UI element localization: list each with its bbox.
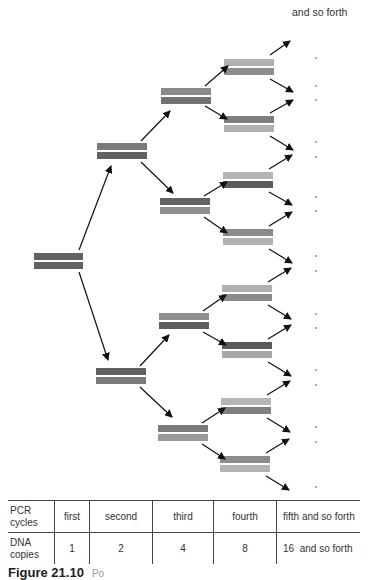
pcr-cycles-table: PCRcycles first second third fourth fift… — [8, 500, 360, 564]
row-header-line1: DNA — [10, 537, 31, 548]
dna-duplex-cycle2-top — [97, 143, 147, 159]
cell-copies-16: 16 and so forth — [277, 533, 361, 565]
pcr-amplification-tree: and so forth — [0, 0, 376, 495]
cell-copies-8: 8 — [214, 533, 277, 565]
cell-cycle-second: second — [90, 501, 153, 533]
dna-duplex-cycle4-4 — [223, 229, 273, 245]
cell-copies-4: 4 — [153, 533, 214, 565]
table-row-dna-copies: DNAcopies 1 2 4 8 16 and so forth — [8, 533, 360, 565]
figure-caption: Figure 21.10Po — [8, 565, 104, 580]
table-row-pcr-cycles: PCRcycles first second third fourth fift… — [8, 501, 360, 533]
dna-duplex-cycle2-bottom — [96, 368, 146, 384]
arrows — [79, 41, 293, 490]
cell-cycle-first: first — [55, 501, 90, 533]
row-header-pcr-cycles: PCRcycles — [8, 501, 55, 533]
row-header-line2: cycles — [10, 517, 38, 528]
dna-duplex-cycle4-6 — [222, 342, 272, 358]
and-so-forth-label: and so forth — [292, 6, 347, 18]
dna-duplex-cycle4-3 — [223, 172, 273, 188]
dna-duplex-cycle3-3 — [159, 313, 209, 329]
row-header-line2: copies — [10, 549, 39, 560]
cell-copies-2: 2 — [90, 533, 153, 565]
dna-duplex-cycle3-1 — [161, 88, 211, 104]
caption-text: Po — [92, 568, 104, 579]
dna-duplex-cycle1 — [34, 253, 83, 269]
cell-cycle-fifth: fifth and so forth — [277, 501, 361, 533]
dna-duplex-cycle4-2 — [224, 116, 274, 132]
cell-copies-1: 1 — [55, 533, 90, 565]
row-header-dna-copies: DNAcopies — [8, 533, 55, 565]
pcr-tree-svg — [0, 0, 376, 495]
figure-label: Figure 21.10 — [8, 565, 84, 580]
dna-duplex-cycle4-8 — [220, 456, 270, 472]
cell-cycle-fourth: fourth — [214, 501, 277, 533]
continuation-dots — [315, 57, 317, 488]
dna-duplex-cycle4-1 — [224, 59, 274, 75]
dna-duplex-cycle4-7 — [221, 398, 271, 414]
dna-duplex-cycle3-2 — [160, 198, 210, 214]
cell-cycle-third: third — [153, 501, 214, 533]
dna-duplex-cycle4-5 — [222, 285, 272, 301]
row-header-line1: PCR — [10, 505, 31, 516]
dna-duplex-cycle3-4 — [158, 425, 208, 441]
